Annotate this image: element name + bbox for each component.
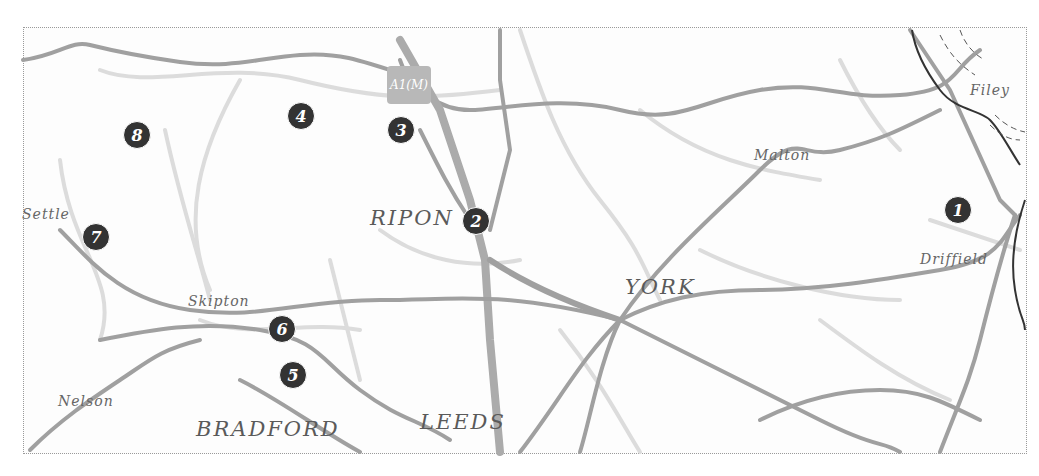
map-marker-5[interactable]: 5 (279, 361, 307, 389)
town-label-driffield: Driffield (920, 251, 988, 267)
map-marker-1[interactable]: 1 (944, 196, 972, 224)
road-network (0, 0, 1039, 476)
town-label-filey: Filey (970, 82, 1010, 98)
town-label-york: YORK (625, 275, 696, 299)
map-marker-8[interactable]: 8 (123, 121, 151, 149)
town-label-leeds: LEEDS (420, 410, 506, 434)
map-marker-2[interactable]: 2 (462, 207, 490, 235)
road-shield-a1m: A1(M) (387, 66, 431, 104)
town-label-malton: Malton (754, 147, 810, 163)
map-marker-3[interactable]: 3 (387, 116, 415, 144)
town-label-settle: Settle (22, 206, 70, 222)
town-label-nelson: Nelson (58, 393, 114, 409)
town-label-skipton: Skipton (188, 293, 250, 309)
map-marker-7[interactable]: 7 (82, 223, 110, 251)
map-marker-4[interactable]: 4 (287, 102, 315, 130)
map-marker-6[interactable]: 6 (268, 315, 296, 343)
town-label-ripon: RIPON (370, 206, 454, 230)
town-label-bradford: BRADFORD (196, 417, 340, 441)
